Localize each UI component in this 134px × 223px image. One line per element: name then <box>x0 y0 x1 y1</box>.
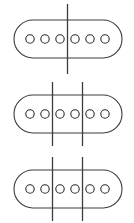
figure-group-1 <box>14 4 122 74</box>
counter-circle-4 <box>71 35 79 43</box>
counter-circle-5 <box>86 35 94 43</box>
counter-circle-6 <box>101 110 109 118</box>
figure-group-2 <box>14 82 122 146</box>
counter-circle-3 <box>56 185 64 193</box>
figure-group-3 <box>14 157 122 221</box>
counter-circle-5 <box>86 110 94 118</box>
counter-circle-4 <box>71 110 79 118</box>
counter-circle-1 <box>26 35 34 43</box>
partition-diagram <box>0 0 134 223</box>
counter-circle-1 <box>26 185 34 193</box>
counter-circle-2 <box>41 35 49 43</box>
counter-circle-2 <box>41 110 49 118</box>
counter-circle-4 <box>71 185 79 193</box>
counter-circle-6 <box>101 35 109 43</box>
counter-circle-6 <box>101 185 109 193</box>
counter-circle-3 <box>56 35 64 43</box>
diagram-root: Partitioned stadium figures Three horizo… <box>0 0 134 223</box>
counter-circle-5 <box>86 185 94 193</box>
counter-circle-1 <box>26 110 34 118</box>
counter-circle-2 <box>41 185 49 193</box>
counter-circle-3 <box>56 110 64 118</box>
